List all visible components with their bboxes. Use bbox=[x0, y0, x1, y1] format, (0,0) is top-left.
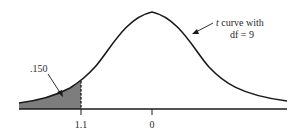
curve-arrow-head-icon bbox=[192, 29, 199, 34]
area-arrow-shaft bbox=[48, 74, 61, 94]
curve-label-line2: df = 9 bbox=[230, 29, 254, 40]
t-distribution-figure: 1.1 0 .150 t curve with df = 9 bbox=[0, 0, 301, 138]
curve-label-line1: t curve with bbox=[216, 17, 264, 28]
area-label: .150 bbox=[30, 63, 48, 74]
shaded-tail-area bbox=[19, 81, 81, 109]
tick-label-0: 0 bbox=[150, 119, 155, 130]
curve-arrow-shaft bbox=[196, 23, 213, 32]
tick-label-1-1: 1.1 bbox=[75, 119, 88, 130]
